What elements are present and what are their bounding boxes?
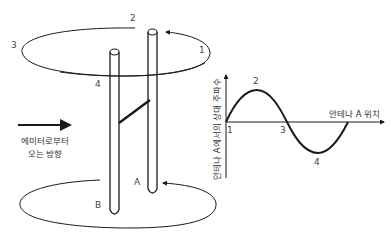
- graph-point-2: 2: [253, 76, 259, 86]
- point-1-label: 1: [199, 45, 205, 55]
- emitter-direction-label-1: 에미터로부터: [21, 136, 69, 146]
- doppler-antenna-diagram: 2 3 1 4 A B 에미터로부터 오는 방향 1 2 3 4 안테나 A 위…: [0, 0, 391, 238]
- antenna-a: [148, 29, 157, 193]
- x-axis-label: 안테나 A 위치: [329, 109, 380, 119]
- antenna-connector: [119, 100, 150, 123]
- graph-point-4: 4: [314, 157, 320, 167]
- point-3-label: 3: [11, 40, 17, 50]
- point-4-label: 4: [95, 79, 101, 89]
- graph-point-1: 1: [227, 125, 233, 135]
- bottom-rotation-path: [20, 180, 216, 228]
- y-axis-label: 안테나 A에서의 상대 주파수: [212, 78, 222, 180]
- point-2-label: 2: [130, 13, 136, 23]
- frequency-graph: [226, 75, 384, 178]
- top-ellipse-front: [60, 63, 205, 76]
- antenna-a-label: A: [134, 177, 141, 187]
- antenna-b-label: B: [95, 200, 101, 210]
- emitter-direction-label-2: 오는 방향: [28, 149, 63, 159]
- graph-point-3: 3: [280, 125, 286, 135]
- antenna-b: [110, 49, 119, 214]
